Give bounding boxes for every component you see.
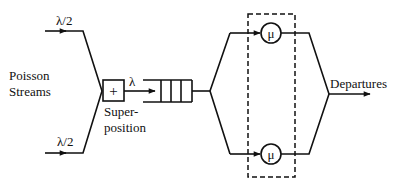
input-stream-bottom: λ/2 — [45, 91, 102, 153]
sources-label-line2: Streams — [9, 84, 51, 99]
merged-rate: λ — [129, 74, 136, 89]
sources-label-line1: Poisson — [9, 68, 50, 83]
superposition-label-line1: Super- — [104, 104, 138, 119]
queueing-diagram: λ/2 λ/2 Poisson Streams + Super- positio… — [0, 0, 400, 187]
split-lines — [210, 33, 230, 154]
server-bottom-rate: μ — [268, 147, 275, 162]
input-bottom-rate: λ/2 — [57, 134, 73, 149]
input-stream-top: λ/2 — [45, 13, 102, 91]
input-top-rate: λ/2 — [56, 13, 72, 28]
input-top-line — [60, 31, 102, 91]
departures-label: Departures — [330, 76, 387, 91]
server-top: μ — [261, 23, 281, 43]
server-top-rate: μ — [268, 26, 275, 41]
superposition-label-line2: position — [104, 120, 146, 135]
plus-icon: + — [109, 83, 117, 99]
superposition-node: + Super- position — [103, 80, 146, 135]
merge-lines — [281, 33, 329, 154]
server-bottom: μ — [261, 144, 281, 164]
